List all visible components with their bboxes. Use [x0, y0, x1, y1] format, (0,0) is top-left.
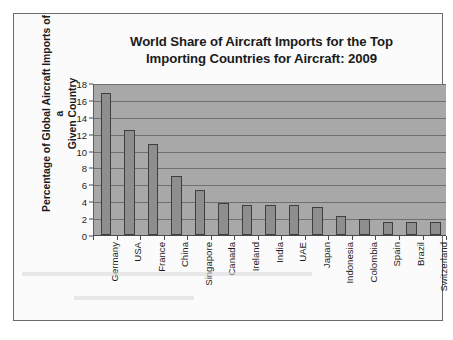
y-axis-tick-mark	[89, 219, 93, 220]
gridline	[94, 84, 446, 85]
y-axis-tick-label: 4	[82, 197, 87, 208]
y-axis-tick-mark	[89, 117, 93, 118]
y-axis-tick-label: 16	[76, 95, 87, 106]
x-axis-tick-mark	[423, 236, 424, 240]
x-axis-label-indonesia: Indonesia	[344, 242, 355, 284]
y-axis-tick-label: 0	[82, 231, 87, 242]
gridline	[94, 101, 446, 102]
bar-germany[interactable]	[101, 93, 112, 235]
bar-japan[interactable]	[312, 207, 323, 235]
x-axis-label-india: India	[274, 242, 285, 263]
bar-switzerland[interactable]	[430, 222, 441, 235]
y-axis-tick-label: 18	[76, 79, 87, 90]
y-axis-tick-label: 8	[82, 163, 87, 174]
x-axis-tick-mark	[328, 236, 329, 240]
y-axis-tick-mark	[89, 202, 93, 203]
y-axis-tick-mark	[89, 168, 93, 169]
x-axis-label-china: China	[179, 242, 190, 267]
x-axis-label-singapore: Singapore	[203, 242, 214, 286]
bar-brazil[interactable]	[406, 222, 417, 236]
x-axis-tick-mark	[164, 236, 165, 240]
x-axis-tick-mark	[187, 236, 188, 240]
y-axis-tick-mark	[89, 236, 93, 237]
y-axis-tick-label: 2	[82, 214, 87, 225]
x-axis-tick-mark	[305, 236, 306, 240]
x-axis-tick-mark	[140, 236, 141, 240]
bar-colombia[interactable]	[359, 219, 370, 235]
y-axis-title-line-1: Percentage of Global Aircraft Imports of…	[40, 14, 66, 214]
y-axis-tick-label: 10	[76, 146, 87, 157]
chart-title-line-2: Importing Countries for Aircraft: 2009	[69, 50, 453, 67]
x-axis-tick-mark	[93, 236, 94, 240]
y-axis-tick-label: 12	[76, 129, 87, 140]
bar-usa[interactable]	[124, 130, 135, 235]
x-axis-label-japan: Japan	[321, 242, 332, 268]
bar-spain[interactable]	[383, 222, 394, 236]
x-axis-label-switzerland: Switzerland	[438, 242, 449, 292]
y-axis-tick-mark	[89, 134, 93, 135]
bar-singapore[interactable]	[195, 190, 206, 235]
x-axis-label-usa: USA	[132, 242, 143, 262]
x-axis-label-colombia: Colombia	[368, 242, 379, 283]
chart-title: World Share of Aircraft Imports for the …	[69, 33, 453, 67]
gridline	[94, 118, 446, 119]
x-axis-tick-mark	[234, 236, 235, 240]
y-axis-tick-mark	[89, 84, 93, 85]
bar-canada[interactable]	[218, 203, 229, 235]
x-axis-tick-mark	[399, 236, 400, 240]
x-axis-tick-mark	[352, 236, 353, 240]
x-axis-label-uae: UAE	[297, 242, 308, 262]
x-axis-tick-mark	[211, 236, 212, 240]
x-axis-label-brazil: Brazil	[415, 242, 426, 266]
bar-china[interactable]	[171, 176, 182, 235]
y-axis-tick-label: 6	[82, 180, 87, 191]
y-axis-tick-mark	[89, 151, 93, 152]
bar-ireland[interactable]	[242, 205, 253, 235]
x-axis-tick-mark	[375, 236, 376, 240]
y-axis-tick-mark	[89, 185, 93, 186]
x-axis-label-spain: Spain	[391, 242, 402, 267]
x-axis-tick-mark	[281, 236, 282, 240]
gridline	[94, 135, 446, 136]
bar-indonesia[interactable]	[336, 216, 347, 235]
x-axis-tick-mark	[446, 236, 447, 240]
plot-area	[93, 84, 446, 236]
y-axis-tick-label: 14	[76, 112, 87, 123]
x-axis-label-france: France	[156, 242, 167, 272]
chart-page-frame: World Share of Aircraft Imports for the …	[13, 13, 443, 321]
bar-france[interactable]	[148, 144, 159, 235]
bar-uae[interactable]	[289, 205, 300, 235]
x-axis-label-canada: Canada	[226, 242, 237, 276]
x-axis-tick-mark	[258, 236, 259, 240]
bar-india[interactable]	[265, 205, 276, 235]
y-axis-tick-mark	[89, 100, 93, 101]
chart-title-line-1: World Share of Aircraft Imports for the …	[69, 33, 453, 50]
x-axis-tick-mark	[117, 236, 118, 240]
x-axis-label-ireland: Ireland	[250, 242, 261, 271]
